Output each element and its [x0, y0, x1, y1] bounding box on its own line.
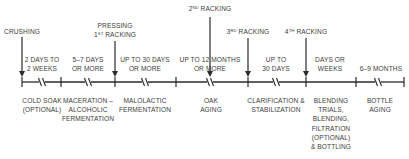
duration-label-line: 2 DAYS TO	[25, 55, 60, 64]
duration-label-line: UP TO 30 DAYS	[120, 55, 170, 64]
event-ordinal-label: 4TH RACKING	[285, 27, 327, 36]
duration-label: 6–9 MONTHS	[360, 64, 402, 73]
duration-label-line: DAYS OR	[315, 55, 345, 64]
winemaking-timeline-diagram: CRUSHINGPRESSING1ST RACKING2ND RACKING3R…	[0, 0, 409, 159]
stage-label-line: MACERATION –	[62, 96, 114, 105]
duration-label-line: OR MORE	[180, 64, 241, 73]
duration-label-line: UP TO 12 MONTHS	[180, 55, 241, 64]
duration-label-line: 30 DAYS	[262, 64, 289, 73]
duration-label: UP TO 30 DAYSOR MORE	[120, 55, 170, 73]
stage-label-line: BLENDING	[311, 96, 351, 105]
duration-label-line: 5–7 DAYS	[72, 55, 104, 64]
stage-label: MALOLACTICFERMENTATION	[119, 96, 171, 114]
axis-break-mark	[207, 78, 214, 86]
stage-label-line: TRIALS,	[311, 105, 351, 114]
stage-label-line: & BOTTLING	[311, 142, 351, 151]
duration-label-line: OR MORE	[120, 64, 170, 73]
event-label-crushing: CRUSHING	[4, 27, 40, 36]
event-label-pressing-1st-racking-line: PRESSING	[94, 21, 136, 30]
stage-label-line: BOTTLE	[367, 96, 393, 105]
stage-label-line: (OPTIONAL)	[311, 133, 351, 142]
duration-label: UP TO 12 MONTHSOR MORE	[180, 55, 241, 73]
stage-label-line: AGING	[200, 105, 222, 114]
axis-break-mark	[85, 78, 92, 86]
axis-break-mark	[142, 78, 149, 86]
stage-label-line: OAK	[200, 96, 222, 105]
stage-label: BOTTLEAGING	[367, 96, 393, 114]
duration-label-line: OR MORE	[72, 64, 104, 73]
stage-label-line: COLD SOAK	[22, 96, 61, 105]
duration-label: UP TO30 DAYS	[262, 55, 289, 73]
event-label-4th-racking: 4TH RACKING	[285, 27, 327, 36]
stage-label: MACERATION –ALCOHOLICFERMENTATION	[62, 96, 114, 124]
stage-label-line: (OPTIONAL)	[22, 105, 61, 114]
event-ordinal-label: 1ST RACKING	[94, 30, 136, 39]
event-label-crushing-line: CRUSHING	[4, 27, 40, 36]
duration-label: 5–7 DAYSOR MORE	[72, 55, 104, 73]
duration-label-line: 6–9 MONTHS	[360, 64, 402, 73]
duration-label-line: WEEKS	[315, 64, 345, 73]
stage-label-line: AGING	[367, 105, 393, 114]
stage-label-line: ALCOHOLIC	[62, 105, 114, 114]
stage-label: BLENDINGTRIALS,BLENDING,FILTRATION(OPTIO…	[311, 96, 351, 151]
event-label-2nd-racking: 2ND RACKING	[189, 4, 232, 13]
stage-label: CLARIFICATION &STABILIZATION	[247, 96, 304, 114]
arrow-down-icon	[303, 71, 309, 77]
arrow-down-icon	[245, 71, 251, 77]
duration-label-line: UP TO	[262, 55, 289, 64]
duration-label: 2 DAYS TO2 WEEKS	[25, 55, 60, 73]
duration-label: DAYS ORWEEKS	[315, 55, 345, 73]
axis-break-mark	[273, 78, 280, 86]
stage-label-line: FILTRATION	[311, 124, 351, 133]
stage-label: COLD SOAK(OPTIONAL)	[22, 96, 61, 114]
stage-label-line: FERMENTATION	[119, 105, 171, 114]
event-ordinal-label: 3RD RACKING	[227, 27, 270, 36]
axis-break-mark	[375, 78, 382, 86]
arrow-down-icon	[112, 71, 118, 77]
stage-label-line: BLENDING,	[311, 114, 351, 123]
stage-label-line: CLARIFICATION &	[247, 96, 304, 105]
stage-label-line: STABILIZATION	[247, 105, 304, 114]
event-label-pressing-1st-racking: PRESSING1ST RACKING	[94, 21, 136, 39]
stage-label-line: MALOLACTIC	[119, 96, 171, 105]
event-ordinal-label: 2ND RACKING	[189, 4, 232, 13]
stage-label-line: FERMENTATION	[62, 114, 114, 123]
event-label-3rd-racking: 3RD RACKING	[227, 27, 270, 36]
duration-label-line: 2 WEEKS	[25, 64, 60, 73]
stage-label: OAKAGING	[200, 96, 222, 114]
axis-break-mark	[39, 78, 46, 86]
